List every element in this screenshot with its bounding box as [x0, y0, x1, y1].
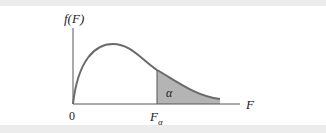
- critical-value-subscript: α: [158, 117, 163, 127]
- y-axis-label: f(F): [64, 12, 84, 25]
- critical-value-main: F: [150, 109, 158, 124]
- critical-value-label: Fα: [150, 110, 163, 127]
- f-distribution-diagram: [0, 0, 326, 133]
- origin-label: 0: [69, 110, 75, 122]
- x-axis-label: F: [246, 98, 254, 111]
- shaded-area-label: α: [166, 87, 172, 99]
